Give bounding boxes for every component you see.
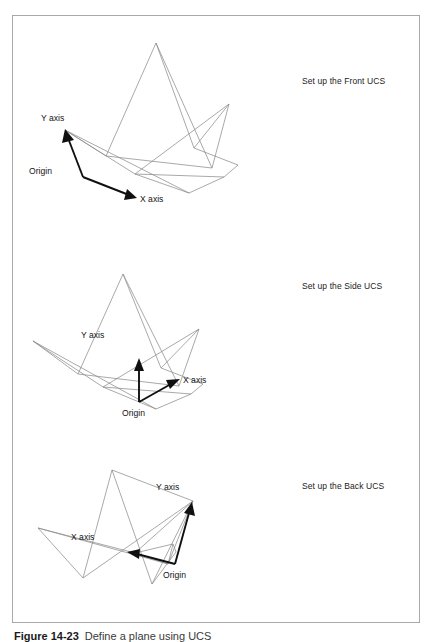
x-axis-arrowhead-back bbox=[127, 549, 140, 559]
figure-caption-number: Figure 14-23 bbox=[14, 630, 79, 642]
panel-label-side: Set up the Side UCS bbox=[302, 281, 382, 291]
x-axis-arrow-line-side bbox=[139, 384, 171, 402]
origin-label-front: Origin bbox=[29, 166, 52, 176]
ucs-icon-side bbox=[134, 358, 180, 402]
y-axis-arrowhead-front bbox=[62, 129, 74, 143]
y-axis-label-side: Y axis bbox=[81, 330, 104, 340]
wireframe-back bbox=[38, 470, 193, 584]
x-axis-label-front: X axis bbox=[140, 194, 163, 204]
origin-label-side: Origin bbox=[122, 408, 145, 418]
figure-caption: Figure 14-23Define a plane using UCS bbox=[14, 630, 434, 642]
diagram-front-ucs: Y axis Origin X axis bbox=[13, 16, 419, 622]
x-axis-arrow-line-back bbox=[137, 554, 175, 564]
x-axis-label-back: X axis bbox=[71, 532, 94, 542]
y-axis-arrowhead-side bbox=[134, 358, 144, 371]
origin-label-back: Origin bbox=[163, 570, 186, 580]
figure-caption-text: Define a plane using UCS bbox=[85, 630, 212, 642]
x-axis-label-side: X axis bbox=[183, 375, 206, 385]
wireframe-side bbox=[33, 274, 203, 409]
y-axis-label-front: Y axis bbox=[41, 113, 64, 123]
panel-label-front: Set up the Front UCS bbox=[302, 76, 385, 86]
x-axis-arrow-line-front bbox=[83, 177, 129, 195]
y-axis-arrow-line-front bbox=[68, 138, 83, 177]
wireframe-front bbox=[65, 43, 238, 193]
ucs-icon-front bbox=[62, 129, 137, 200]
panel-label-back: Set up the Back UCS bbox=[302, 481, 384, 491]
y-axis-label-back: Y axis bbox=[156, 482, 179, 492]
y-axis-arrowhead-back bbox=[184, 502, 195, 516]
ucs-icon-back bbox=[127, 502, 195, 564]
y-axis-arrow-line-back bbox=[175, 513, 189, 564]
diagram-back-ucs: Y axis Origin X axis bbox=[13, 16, 419, 622]
diagram-side-ucs: Y axis Origin X axis bbox=[13, 16, 419, 622]
figure-root: Y axis Origin X axis bbox=[0, 0, 436, 642]
x-axis-arrowhead-side bbox=[166, 379, 180, 389]
x-axis-arrowhead-front bbox=[124, 189, 137, 200]
figure-border-frame: Y axis Origin X axis bbox=[12, 15, 420, 623]
